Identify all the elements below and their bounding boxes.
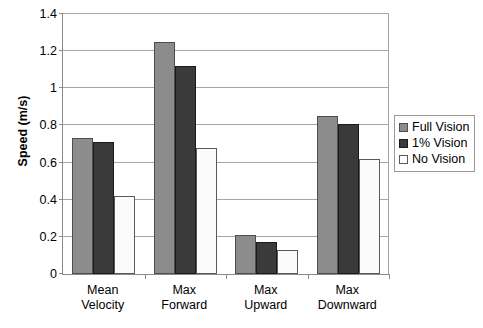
legend-item: No Vision bbox=[399, 151, 469, 167]
y-tick-label: 1.2 bbox=[40, 44, 57, 58]
y-axis-title: Speed (m/s) bbox=[16, 71, 30, 191]
plot-inner: 00.20.40.60.811.21.4 bbox=[63, 14, 389, 274]
legend-swatch-icon bbox=[399, 123, 408, 132]
bar-group-bars bbox=[308, 14, 390, 274]
legend-swatch-icon bbox=[399, 139, 408, 148]
bar bbox=[256, 242, 277, 274]
x-axis-separator bbox=[226, 274, 227, 279]
legend-swatch-icon bbox=[399, 155, 408, 164]
chart-legend: Full Vision1% VisionNo Vision bbox=[394, 115, 475, 172]
bar bbox=[175, 66, 196, 274]
y-tick-label: 1.4 bbox=[40, 7, 57, 21]
x-axis-label-line: Max bbox=[144, 283, 226, 298]
bar-group bbox=[145, 14, 227, 274]
x-axis-label-line: Downward bbox=[307, 298, 389, 313]
x-axis-label-line: Upward bbox=[225, 298, 307, 313]
plot-area: 00.20.40.60.811.21.4 bbox=[62, 14, 389, 275]
y-tick-label: 0 bbox=[50, 267, 57, 281]
y-tick-label: 0.8 bbox=[40, 118, 57, 132]
legend-label: Full Vision bbox=[412, 121, 469, 134]
bar bbox=[338, 124, 359, 274]
x-axis-label-line: Velocity bbox=[62, 298, 144, 313]
y-tick-label: 0.2 bbox=[40, 230, 57, 244]
bar bbox=[154, 42, 175, 274]
bar-group-bars bbox=[63, 14, 145, 274]
bar-group-bars bbox=[226, 14, 308, 274]
x-axis-label-line: Mean bbox=[62, 283, 144, 298]
x-axis-separator bbox=[145, 274, 146, 279]
x-axis-label: MaxDownward bbox=[307, 283, 389, 313]
bar bbox=[235, 235, 256, 274]
bar-group bbox=[308, 14, 390, 274]
x-axis-label-line: Max bbox=[307, 283, 389, 298]
legend-label: 1% Vision bbox=[412, 137, 467, 150]
bar-group bbox=[63, 14, 145, 274]
legend-item: Full Vision bbox=[399, 119, 469, 135]
bar bbox=[277, 250, 298, 274]
bar-chart: Speed (m/s) 00.20.40.60.811.21.4 MeanVel… bbox=[0, 0, 483, 328]
x-axis-label-line: Forward bbox=[144, 298, 226, 313]
x-axis-label: MaxForward bbox=[144, 283, 226, 313]
legend-label: No Vision bbox=[412, 153, 465, 166]
x-axis-separator bbox=[389, 274, 390, 279]
bar bbox=[317, 116, 338, 274]
legend-items: Full Vision1% VisionNo Vision bbox=[399, 119, 469, 167]
bar bbox=[359, 159, 380, 274]
bar bbox=[72, 138, 93, 274]
bar-group bbox=[226, 14, 308, 274]
x-axis-label: MeanVelocity bbox=[62, 283, 144, 313]
x-axis-label: MaxUpward bbox=[225, 283, 307, 313]
bar bbox=[93, 142, 114, 274]
legend-item: 1% Vision bbox=[399, 135, 469, 151]
bar bbox=[114, 196, 135, 274]
bar bbox=[196, 148, 217, 274]
y-tick-label: 1 bbox=[50, 81, 57, 95]
bar-group-bars bbox=[145, 14, 227, 274]
x-axis-label-line: Max bbox=[225, 283, 307, 298]
y-tick-label: 0.6 bbox=[40, 156, 57, 170]
x-axis-separator bbox=[308, 274, 309, 279]
y-tick-label: 0.4 bbox=[40, 193, 57, 207]
